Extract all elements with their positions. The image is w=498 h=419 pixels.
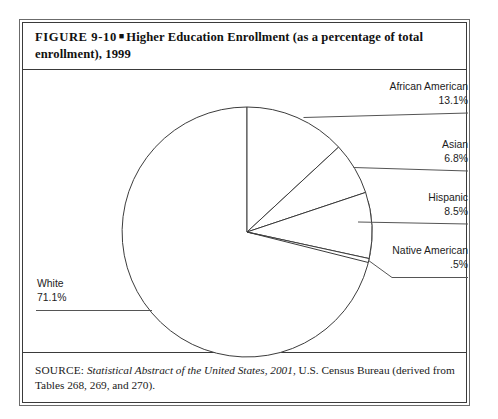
callout-african-american-value: 13.1% — [340, 94, 468, 108]
source-label: SOURCE: — [35, 364, 84, 376]
callout-white: White 71.1% — [37, 277, 157, 305]
callout-hispanic-category: Hispanic — [340, 191, 468, 205]
callout-white-category: White — [37, 277, 157, 291]
callout-asian: Asian 6.8% — [340, 138, 468, 166]
callout-african-american: African American 13.1% — [340, 80, 468, 108]
source-divider — [23, 352, 466, 353]
callout-native-american-category: Native American — [340, 244, 468, 258]
callout-asian-value: 6.8% — [340, 152, 468, 166]
callout-asian-category: Asian — [340, 138, 468, 152]
callout-hispanic-value: 8.5% — [340, 205, 468, 219]
callout-african-american-category: African American — [340, 80, 468, 94]
callout-native-american: Native American .5% — [340, 244, 468, 272]
figure-number: FIGURE 9-10 — [35, 30, 117, 44]
callout-native-american-value: .5% — [340, 258, 468, 272]
callout-hispanic: Hispanic 8.5% — [340, 191, 468, 219]
figure-bullet-icon: ■ — [117, 31, 127, 41]
figure-caption: FIGURE 9-10■Higher Education Enrollment … — [35, 28, 450, 63]
source-publication-title: Statistical Abstract of the United State… — [87, 364, 293, 376]
source-note: SOURCE: Statistical Abstract of the Unit… — [35, 363, 460, 393]
callout-white-value: 71.1% — [37, 291, 157, 305]
caption-divider — [23, 69, 466, 70]
